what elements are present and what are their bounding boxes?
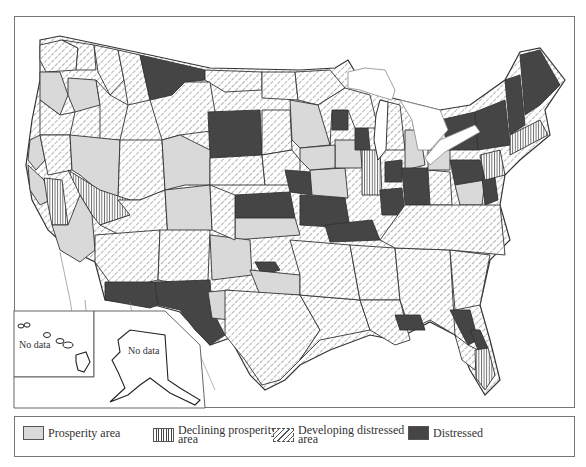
region-ne-north	[210, 155, 265, 185]
region-wi-nw	[332, 110, 348, 130]
region-az-south	[105, 282, 158, 308]
legend-label: Declining prosperity area	[178, 426, 277, 444]
us-region-map: No data No data	[0, 0, 586, 467]
alaska-no-data-label: No data	[128, 345, 160, 356]
legend-item-prosperity: Prosperity area	[23, 426, 120, 440]
distressed-swatch-icon	[408, 426, 429, 440]
region-ga	[450, 250, 490, 310]
legend-item-developing-distressed: Developing distressed area	[273, 426, 404, 444]
declining-prosperity-swatch-icon	[153, 428, 174, 442]
region-nj	[480, 150, 505, 180]
region-sd-east	[262, 110, 292, 155]
legend-label: Prosperity area	[48, 426, 120, 440]
region-wv	[428, 170, 452, 205]
hawaii-no-data-label: No data	[19, 339, 51, 350]
legend-item-declining-prosperity: Declining prosperity area	[153, 426, 277, 444]
region-sd-nw	[208, 110, 262, 158]
region-nm-west	[158, 230, 210, 285]
region-fl-panhandle	[395, 315, 425, 330]
region-il-south	[310, 168, 348, 198]
legend-label: Developing distressed area	[298, 426, 404, 444]
region-nd-east	[262, 72, 298, 100]
developing-distressed-swatch-icon	[273, 428, 294, 442]
region-oh-east	[402, 168, 430, 205]
region-de	[482, 178, 498, 205]
legend-label: Distressed	[433, 426, 483, 440]
region-ut-north	[118, 140, 165, 200]
prosperity-swatch-icon	[23, 426, 44, 440]
region-me	[520, 50, 560, 115]
region-ks-ne	[235, 192, 295, 218]
region-nm-east	[210, 235, 252, 280]
region-ok-east	[290, 240, 360, 300]
region-oh-west	[385, 160, 402, 182]
hawaii-inset: No data	[14, 311, 94, 377]
legend: Prosperity area Declining prosperity are…	[14, 416, 575, 457]
region-wi-east	[355, 128, 370, 150]
legend-item-distressed: Distressed	[408, 426, 483, 440]
